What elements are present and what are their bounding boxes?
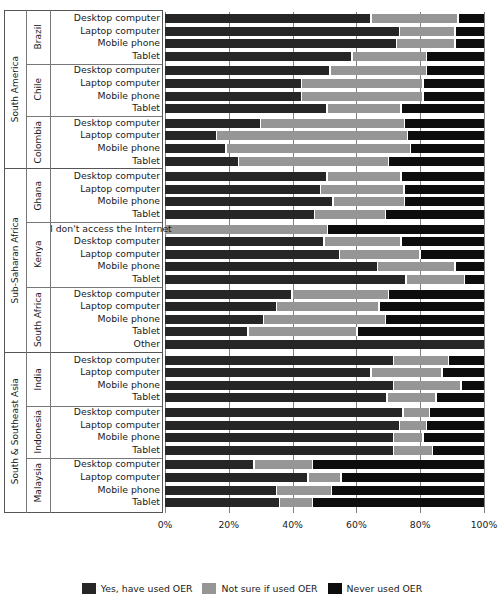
category-label: Laptop computer [50, 78, 160, 87]
country-label-cell: Chile [26, 63, 50, 115]
bar-segment-yes [165, 144, 225, 153]
region-label-cell: South America [4, 11, 26, 168]
bar-row [165, 197, 484, 206]
legend-label: Not sure if used OER [221, 583, 317, 594]
country-label-cell: Indonesia [26, 405, 50, 457]
bar-segment-yes [165, 237, 323, 246]
bar-segment-yes [165, 290, 291, 299]
bar-segment-notsure [217, 131, 407, 140]
region-label: South & Southeast Asia [4, 353, 26, 510]
x-axis-tick-label: 100% [464, 519, 504, 530]
bar-segment-notsure [388, 393, 435, 402]
bar-row [165, 92, 484, 101]
x-axis-tick-label: 40% [273, 519, 313, 530]
category-label: Laptop computer [50, 472, 160, 481]
bar-segment-yes [165, 446, 393, 455]
bar-segment-yes [165, 356, 393, 365]
bar-segment-notsure [400, 421, 425, 430]
bar-segment-notsure [400, 27, 454, 36]
bar-segment-notsure [277, 302, 378, 311]
bar-segment-never [386, 210, 484, 219]
bar-segment-never [405, 119, 484, 128]
legend-label: Never used OER [347, 583, 423, 594]
country-label: South Africa [26, 287, 50, 352]
bar-segment-yes [165, 381, 393, 390]
category-label: Laptop computer [50, 420, 160, 429]
bar-segment-never [386, 315, 484, 324]
bar-segment-never [443, 368, 484, 377]
bar-segment-notsure [227, 144, 410, 153]
country-label: Brazil [26, 11, 50, 63]
region-separator-top [4, 352, 162, 353]
category-label: Desktop computer [50, 407, 160, 416]
category-label: Mobile phone [50, 38, 160, 47]
bar-segment-notsure [302, 79, 422, 88]
bar-segment-yes [165, 486, 276, 495]
bar-segment-never [459, 14, 484, 23]
bar-row [165, 185, 484, 194]
bar-row [165, 39, 484, 48]
stacked-bar-chart: Desktop computerLaptop computerMobile ph… [0, 0, 504, 606]
bar-row [165, 210, 484, 219]
bar-segment-never [402, 104, 484, 113]
country-label-cell: Brazil [26, 11, 50, 63]
bar-segment-notsure [249, 327, 356, 336]
bar-segment-notsure [372, 368, 442, 377]
category-label: Laptop computer [50, 26, 160, 35]
category-label: Mobile phone [50, 314, 160, 323]
bar-segment-never [405, 185, 484, 194]
bar-segment-yes [165, 433, 393, 442]
category-label: Other [50, 339, 160, 348]
bar-row [165, 433, 484, 442]
legend-item[interactable]: Yes, have used OER [82, 583, 193, 594]
bar-segment-yes [165, 315, 263, 324]
bar-segment-notsure [372, 14, 457, 23]
bar-row [165, 237, 484, 246]
bar-segment-notsure [277, 486, 331, 495]
bar-segment-notsure [325, 237, 401, 246]
bar-segment-never [380, 302, 484, 311]
bar-segment-notsure [404, 408, 429, 417]
bar-segment-notsure [340, 250, 419, 259]
bar-segment-yes [165, 460, 253, 469]
bar-segment-yes [165, 408, 402, 417]
bar-segment-never [427, 52, 484, 61]
bar-segment-notsure [331, 66, 426, 75]
bar-segment-yes [165, 275, 405, 284]
bar-segment-never [358, 327, 484, 336]
bar-segment-notsure [255, 460, 312, 469]
label-table-left-border [4, 10, 5, 513]
bar-segment-notsure [261, 119, 403, 128]
bar-segment-notsure [302, 92, 422, 101]
bar-segment-never [411, 144, 484, 153]
bar-segment-yes [165, 92, 301, 101]
bar-segment-yes [165, 421, 399, 430]
bar-row [165, 460, 484, 469]
country-label: Colombia [26, 116, 50, 168]
bar-row [165, 131, 484, 140]
bar-row [165, 315, 484, 324]
bar-segment-yes [165, 473, 307, 482]
bar-segment-yes [165, 262, 377, 271]
bar-segment-never [462, 381, 484, 390]
category-column-right-border [162, 10, 163, 513]
legend-item[interactable]: Not sure if used OER [202, 583, 317, 594]
bar-row [165, 356, 484, 365]
bar-segment-never [424, 433, 484, 442]
bar-segment-notsure [378, 262, 454, 271]
legend-item[interactable]: Never used OER [328, 583, 423, 594]
bar-segment-never [456, 39, 484, 48]
bar-segment-notsure [264, 315, 384, 324]
category-label: Tablet [50, 326, 160, 335]
bar-segment-notsure [239, 157, 388, 166]
category-label: Desktop computer [50, 355, 160, 364]
region-separator-bottom [4, 512, 162, 513]
legend-swatch-icon [202, 583, 216, 594]
bar-segment-never [456, 262, 484, 271]
country-label: Chile [26, 63, 50, 115]
bar-segment-notsure [353, 52, 426, 61]
bar-row [165, 119, 484, 128]
bar-row [165, 498, 484, 507]
bar-segment-yes [165, 340, 484, 349]
legend-swatch-icon [328, 583, 342, 594]
